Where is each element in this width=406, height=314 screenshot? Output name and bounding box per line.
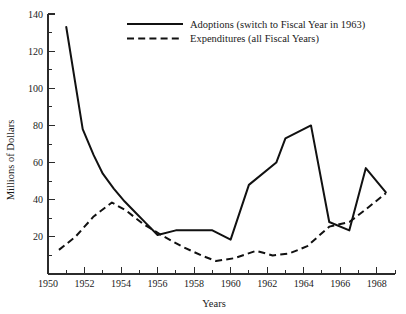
y-axis-title: Millions of Dollars xyxy=(5,120,16,201)
data-series-group xyxy=(59,27,386,261)
x-axis-title: Years xyxy=(202,298,225,309)
y-tick-label: 40 xyxy=(33,194,43,205)
x-tick-label: 1962 xyxy=(257,278,277,289)
legend-label-2: Expenditures (all Fiscal Years) xyxy=(190,33,319,45)
line-chart: 20406080100120140 1950195219541956195819… xyxy=(0,0,406,314)
x-tick-label: 1964 xyxy=(294,278,314,289)
x-tick-label: 1958 xyxy=(184,278,204,289)
y-axis: 20406080100120140 xyxy=(28,9,55,275)
x-tick-label: 1956 xyxy=(148,278,168,289)
x-tick-label: 1954 xyxy=(111,278,131,289)
chart-legend: Adoptions (switch to Fiscal Year in 1963… xyxy=(127,19,366,45)
x-tick-label: 1966 xyxy=(330,278,350,289)
y-tick-label: 100 xyxy=(28,83,43,94)
series-line-2 xyxy=(59,193,386,261)
y-tick-label: 60 xyxy=(33,157,43,168)
series-line-1 xyxy=(66,27,386,240)
y-tick-label: 80 xyxy=(33,120,43,131)
x-tick-label: 1960 xyxy=(221,278,241,289)
x-axis: 1950195219541956195819601962196419661968 xyxy=(38,267,395,289)
legend-label-1: Adoptions (switch to Fiscal Year in 1963… xyxy=(190,19,366,31)
x-tick-label: 1950 xyxy=(38,278,58,289)
y-tick-label: 20 xyxy=(33,231,43,242)
x-tick-label: 1968 xyxy=(367,278,387,289)
chart-canvas: 20406080100120140 1950195219541956195819… xyxy=(0,0,406,314)
y-tick-label: 120 xyxy=(28,46,43,57)
x-tick-label: 1952 xyxy=(75,278,95,289)
y-tick-label: 140 xyxy=(28,9,43,20)
